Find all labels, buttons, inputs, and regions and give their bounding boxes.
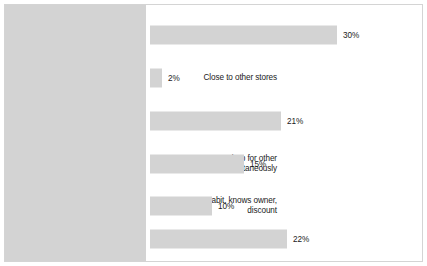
bar-value-label: 21% bbox=[287, 117, 303, 126]
bar-value-label: 2% bbox=[168, 74, 180, 83]
bar-close-to-other-stores bbox=[150, 69, 162, 88]
bar-value-label: 22% bbox=[293, 235, 309, 244]
bar-track: 21% bbox=[150, 101, 422, 141]
bar-value-label: 10% bbox=[218, 202, 234, 211]
bar-row: Misc. 22% bbox=[5, 219, 422, 259]
bar-track: 22% bbox=[150, 219, 422, 259]
bar-row: Close to home/work 21% bbox=[5, 101, 422, 141]
bar-close-to-home-work bbox=[150, 112, 281, 131]
bar-misc bbox=[150, 230, 287, 249]
bar-track: 15% bbox=[150, 144, 422, 184]
chart-frame: Low prices 30% Close to other stores 2% … bbox=[4, 4, 423, 262]
bar-value-label: 15% bbox=[250, 160, 266, 169]
bar-value-label: 30% bbox=[343, 31, 359, 40]
bar-habit-knows-owner-discount bbox=[150, 197, 212, 216]
bar-track: 2% bbox=[150, 58, 422, 98]
bar-low-prices bbox=[150, 26, 337, 45]
bar-track: 30% bbox=[150, 15, 422, 55]
bar-row: Low prices 30% bbox=[5, 15, 422, 55]
bar-can-shop-for-other-items-simultaneously bbox=[150, 155, 244, 174]
bar-row: Can shop for other items simultaneously … bbox=[5, 144, 422, 184]
bar-row: Close to other stores 2% bbox=[5, 58, 422, 98]
